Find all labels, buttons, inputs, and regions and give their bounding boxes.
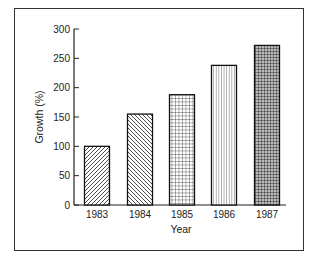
bar-1986 <box>212 65 237 205</box>
bar-1987 <box>255 45 280 205</box>
y-tick-label: 50 <box>59 170 71 181</box>
bars <box>85 45 280 205</box>
bar-1985 <box>170 95 195 205</box>
y-axis-title: Growth (%) <box>33 90 45 143</box>
labels: 05010015020025030019831984198519861987Ye… <box>33 24 279 236</box>
x-tick-label: 1987 <box>256 209 279 220</box>
x-axis-title: Year <box>170 223 192 235</box>
y-tick-label: 0 <box>64 200 70 211</box>
bar-1984 <box>128 114 153 205</box>
y-tick-label: 100 <box>53 141 70 152</box>
x-tick-label: 1984 <box>129 209 152 220</box>
y-tick-label: 300 <box>53 24 70 35</box>
y-tick-label: 200 <box>53 82 70 93</box>
bar-1983 <box>85 146 110 205</box>
y-tick-label: 250 <box>53 53 70 64</box>
x-tick-label: 1983 <box>86 209 109 220</box>
bar-chart: 05010015020025030019831984198519861987Ye… <box>0 0 313 261</box>
y-tick-label: 150 <box>53 112 70 123</box>
x-tick-label: 1986 <box>213 209 236 220</box>
x-tick-label: 1985 <box>171 209 194 220</box>
